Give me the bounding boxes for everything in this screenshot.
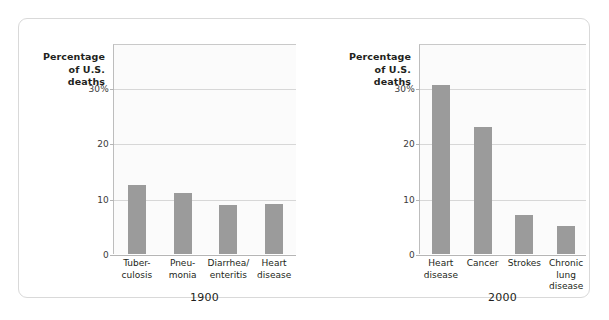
bar (128, 185, 146, 254)
x-axis-label: Pneu-monia (160, 258, 206, 281)
x-axis-label-line: Pneu- (160, 258, 206, 270)
plot-area-1900: 0102030% Tuber-culosisPneu-moniaDiarrhea… (113, 44, 296, 254)
x-axis-label: Heartdisease (251, 258, 297, 281)
x-axis-label-line: disease (251, 270, 297, 282)
bar-series-1900 (114, 45, 296, 254)
bar (219, 205, 237, 254)
y-tick-label-10: 10 (97, 195, 109, 205)
y-tick-label-0: 0 (103, 250, 109, 260)
y-tick-label-0: 0 (409, 250, 415, 260)
x-axis-label-line: Diarrhea/ (206, 258, 252, 270)
bar (265, 204, 283, 254)
plot-area-2000: 0102030% HeartdiseaseCancerStrokesChroni… (419, 44, 586, 254)
x-axis-label: Strokes (504, 258, 546, 270)
x-axis-label-line: culosis (114, 270, 160, 282)
y-axis-title-1900: Percentage of U.S. deaths (17, 51, 105, 89)
x-axis-label: Chroniclung disease (545, 258, 587, 293)
y-axis-title-line: of U.S. (375, 64, 411, 75)
bar (174, 193, 192, 254)
x-axis-label-line: Tuber- (114, 258, 160, 270)
bar-series-2000 (420, 45, 586, 254)
y-tick-label-20: 20 (97, 139, 109, 149)
x-axis-label-line: disease (420, 270, 462, 282)
x-axis-label: Cancer (462, 258, 504, 270)
x-axis-labels-2000: HeartdiseaseCancerStrokesChroniclung dis… (420, 254, 586, 288)
x-axis-labels-1900: Tuber-culosisPneu-moniaDiarrhea/enteriti… (114, 254, 296, 288)
bar (515, 215, 533, 254)
bar (474, 127, 492, 254)
x-axis-label: Tuber-culosis (114, 258, 160, 281)
y-axis-title-2000: Percentage of U.S. deaths (323, 51, 411, 89)
y-tick-label-20: 20 (403, 139, 415, 149)
x-axis-label-line: Cancer (462, 258, 504, 270)
bar (557, 226, 575, 254)
y-axis-title-line: Percentage (43, 51, 105, 62)
x-axis-label-line: monia (160, 270, 206, 282)
y-tick-label-30: 30% (88, 84, 109, 94)
x-axis-label-line: Chronic (545, 258, 587, 270)
x-axis-label-line: Heart (420, 258, 462, 270)
panel-year-label-2000: 2000 (419, 291, 586, 304)
x-axis-label-line: Strokes (504, 258, 546, 270)
x-axis-label-line: enteritis (206, 270, 252, 282)
chart-panel-2000: Percentage of U.S. deaths 0102030% Heart… (305, 19, 591, 299)
x-axis-label: Heartdisease (420, 258, 462, 281)
chart-panel-1900: Percentage of U.S. deaths 0102030% Tuber… (19, 19, 309, 299)
y-tick-label-30: 30% (394, 84, 415, 94)
y-axis-title-line: of U.S. (69, 64, 105, 75)
y-tick-label-10: 10 (403, 195, 415, 205)
x-axis-label: Diarrhea/enteritis (206, 258, 252, 281)
bar (432, 85, 450, 254)
y-axis-title-line: Percentage (349, 51, 411, 62)
figure-card: Percentage of U.S. deaths 0102030% Tuber… (18, 18, 590, 298)
panel-year-label-1900: 1900 (113, 291, 296, 304)
x-axis-label-line: lung disease (545, 270, 587, 293)
x-axis-label-line: Heart (251, 258, 297, 270)
